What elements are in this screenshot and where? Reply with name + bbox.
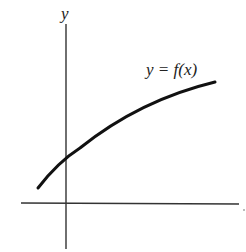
function-graph: y y = f(x) bbox=[0, 0, 246, 252]
function-curve bbox=[38, 82, 215, 188]
x-axis bbox=[21, 203, 239, 204]
x-axis-label-fragment bbox=[243, 209, 245, 211]
y-axis-label: y bbox=[59, 4, 69, 23]
function-label: y = f(x) bbox=[144, 60, 197, 79]
